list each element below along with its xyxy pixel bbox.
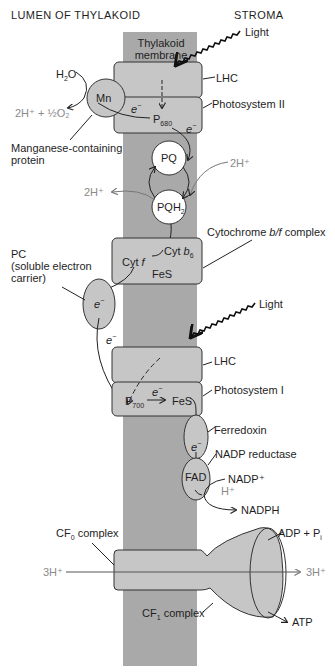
proton-out-atp: 3H⁺ xyxy=(306,566,326,578)
cytochrome-bf-label: Cytochrome b/f complex xyxy=(207,226,326,238)
electron-label-ps1: e− xyxy=(152,386,162,398)
lhc-ps2-block xyxy=(114,62,202,98)
nadph-label: NADPH xyxy=(241,504,280,516)
mn-label: Mn xyxy=(96,92,111,104)
electron-label-pc: e− xyxy=(94,298,104,310)
light-label-ps2: Light xyxy=(245,26,269,38)
proton-out-pq: 2H⁺ xyxy=(84,186,104,198)
thylakoid-electron-transport-diagram: LUMEN OF THYLAKOID STROMA Thylakoid memb… xyxy=(0,0,335,672)
cf1-complex-label: CF1 complex xyxy=(142,607,205,619)
nadp-reductase-label: NADP reductase xyxy=(215,448,297,460)
pqh2-label: PQH2 xyxy=(157,201,185,213)
lhc-label-ps2: LHC xyxy=(216,72,238,84)
photosystem2-label: Photosystem II xyxy=(212,98,285,110)
proton-nadp-label: H⁺ xyxy=(221,485,235,497)
cf0-complex-label: CF0 complex xyxy=(56,527,119,539)
stroma-header: STROMA xyxy=(234,9,283,21)
membrane-label: Thylakoid membrane xyxy=(126,37,196,61)
lhc-ps1-block xyxy=(112,347,202,383)
ps1-fes-label: FeS xyxy=(172,395,192,407)
lhc-label-ps1: LHC xyxy=(214,355,236,367)
ferredoxin-label: Ferredoxin xyxy=(214,424,267,436)
electron-label-pc-out: e− xyxy=(106,334,116,346)
proton-in-pq: 2H⁺ xyxy=(230,157,250,169)
nadp-label: NADP⁺ xyxy=(228,473,265,485)
p680-label: P680 xyxy=(153,113,172,125)
light-wave-ps1 xyxy=(191,303,255,337)
light-label-ps1: Light xyxy=(259,298,283,310)
photosystem1-label: Photosystem I xyxy=(214,384,284,396)
lumen-header: LUMEN OF THYLAKOID xyxy=(11,9,140,21)
electron-label-ps2: e− xyxy=(131,103,141,115)
manganese-protein-label: Manganese-containing protein xyxy=(11,142,122,166)
atp-label: ATP xyxy=(292,616,313,628)
cyt-f-label: Cyt f xyxy=(122,256,145,268)
p700-label: P700 xyxy=(125,395,144,407)
plastocyanin-label: PC (soluble electron carrier) xyxy=(11,248,92,284)
adp-pi-label: ADP + Pi xyxy=(278,527,322,539)
proton-in-atp: 3H⁺ xyxy=(43,566,63,578)
fad-label: FAD xyxy=(185,471,206,483)
oxygen-products-label: 2H⁺ + ½O₂ xyxy=(15,107,70,119)
cytochrome-fes-label: FeS xyxy=(152,268,172,280)
water-label: H2O xyxy=(56,68,76,80)
electron-label-ps2-out: e− xyxy=(186,123,196,135)
electron-label-ferredoxin: e− xyxy=(191,441,201,453)
cyt-b6-label: Cyt b6 xyxy=(164,245,194,257)
pq-label: PQ xyxy=(161,152,177,164)
